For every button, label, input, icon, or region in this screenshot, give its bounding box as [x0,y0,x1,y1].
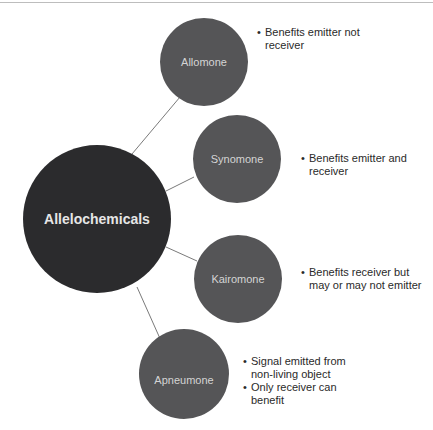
description-synomone: Benefits emitter and receiver [301,152,411,178]
bullet-item: Benefits receiver but may or may not emi… [301,266,429,292]
description-kairomone: Benefits receiver but may or may not emi… [301,266,429,292]
description-allomone: Benefits emitter not receiver [257,26,367,52]
node-allomone: Allomone [160,18,248,106]
connector-allomone [132,97,180,154]
bullet-item: Benefits emitter and receiver [301,152,411,178]
allelochemicals-diagram: Allelochemicals Allomone Synomone Kairom… [0,0,433,430]
center-label: Allelochemicals [44,211,150,227]
connector-kairomone [166,247,197,261]
node-label: Kairomone [211,273,264,285]
center-node: Allelochemicals [23,145,171,293]
node-kairomone: Kairomone [194,235,282,323]
node-label: Synomone [211,153,264,165]
description-apneumone: Signal emitted from non-living object On… [243,355,358,407]
node-label: Apneumone [154,374,213,386]
node-apneumone: Apneumone [139,329,229,419]
bullet-item: Benefits emitter not receiver [257,26,367,52]
bullet-item: Signal emitted from non-living object [243,355,358,381]
connector-synomone [166,177,194,191]
node-synomone: Synomone [193,115,281,203]
connector-apneumone [137,287,162,343]
node-label: Allomone [181,56,227,68]
bullet-item: Only receiver can benefit [243,381,358,407]
